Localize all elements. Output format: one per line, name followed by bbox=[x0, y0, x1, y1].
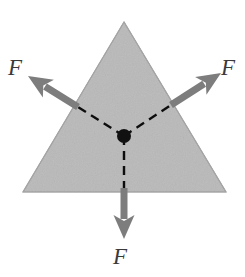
force-label-bottom: F bbox=[113, 245, 127, 268]
force-arrow-bottom bbox=[114, 188, 135, 239]
force-arrow-left bbox=[28, 76, 78, 107]
force-arrow-left-shaft bbox=[45, 87, 78, 107]
force-diagram-canvas bbox=[0, 0, 245, 277]
force-label-right: F bbox=[221, 56, 235, 79]
force-label-left: F bbox=[8, 56, 22, 79]
force-diagram-figure: F F F bbox=[0, 0, 245, 277]
force-arrow-right bbox=[171, 73, 221, 105]
force-arrow-right-shaft bbox=[171, 84, 204, 105]
centroid-dot bbox=[117, 129, 131, 143]
